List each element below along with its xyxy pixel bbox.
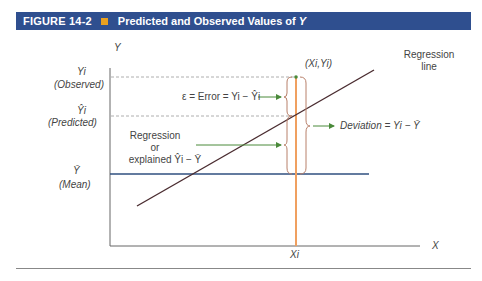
error-brace: [284, 77, 292, 116]
explained-label-3: explained Ŷi − Ȳ: [110, 154, 220, 165]
y-axis-label: Y: [114, 42, 121, 53]
explained-label-2: or: [110, 142, 200, 153]
xi-tick-label: Xi: [290, 249, 299, 260]
error-label: ε = Error = Yi − Ŷi: [182, 91, 260, 102]
mean-symbol: Ȳ: [73, 165, 80, 176]
deviation-brace: [300, 77, 310, 174]
observed-symbol: Yi: [77, 66, 86, 77]
explained-label-1: Regression: [110, 130, 200, 141]
predicted-symbol: Ŷi: [77, 105, 86, 116]
deviation-label: Deviation = Yi − Ȳ: [340, 120, 420, 131]
predicted-label: (Predicted): [48, 117, 97, 128]
explained-brace: [284, 116, 292, 174]
regression-line-label-2: line: [399, 61, 459, 72]
observed-label: (Observed): [54, 79, 104, 90]
x-axis-label: X: [432, 240, 439, 251]
regression-line-label-1: Regression: [399, 49, 459, 60]
mean-label: (Mean): [59, 179, 91, 190]
bottom-divider: [16, 268, 471, 269]
regression-diagram: [0, 0, 482, 281]
point-label: (Xi,Yi): [305, 58, 332, 69]
